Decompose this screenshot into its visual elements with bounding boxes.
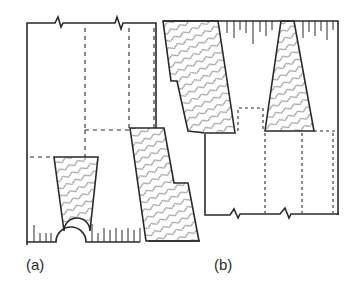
panel-a-label: (a) (26, 256, 44, 273)
stepped-block-b (163, 21, 235, 133)
stepped-block-a (130, 128, 199, 241)
panel-b-label: (b) (214, 256, 232, 273)
diagram-canvas (0, 0, 350, 299)
tapered-insert-b (265, 21, 314, 131)
tapered-insert-a (54, 157, 98, 231)
